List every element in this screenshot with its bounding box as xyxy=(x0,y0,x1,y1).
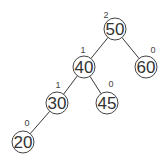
edge-30-20 xyxy=(30,111,50,133)
nodes-layer: 502401600301450200 xyxy=(12,10,157,153)
balance-factor-label: 1 xyxy=(55,80,60,90)
node-value: 60 xyxy=(137,58,156,77)
tree-node-20: 200 xyxy=(12,118,34,153)
balance-factor-label: 0 xyxy=(108,79,113,89)
tree-node-40: 401 xyxy=(73,45,95,78)
tree-node-30: 301 xyxy=(46,80,68,114)
node-value: 50 xyxy=(106,20,125,39)
tree-node-50: 502 xyxy=(103,10,126,40)
tree-node-60: 600 xyxy=(135,45,157,78)
node-value: 45 xyxy=(98,94,117,113)
balance-factor-label: 0 xyxy=(24,118,29,128)
tree-node-45: 450 xyxy=(96,79,118,114)
edge-50-60 xyxy=(122,38,139,59)
balance-factor-label: 0 xyxy=(150,45,155,55)
balance-factor-label: 1 xyxy=(80,45,85,55)
edge-40-45 xyxy=(90,76,101,93)
edge-40-30 xyxy=(64,76,78,94)
balance-factor-label: 2 xyxy=(103,10,108,20)
node-value: 40 xyxy=(75,58,94,77)
node-value: 20 xyxy=(14,133,33,152)
node-value: 30 xyxy=(48,94,67,113)
edge-50-40 xyxy=(91,38,108,59)
tree-diagram: 502401600301450200 xyxy=(0,0,168,164)
